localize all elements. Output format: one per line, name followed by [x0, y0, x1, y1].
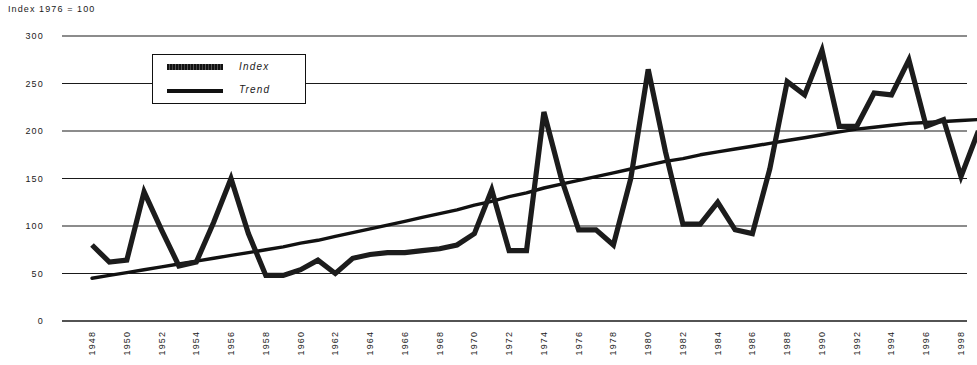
- x-tick-label: 1952: [158, 331, 167, 355]
- y-tick-label: 150: [2, 174, 44, 184]
- x-tick-label: 1960: [297, 331, 306, 355]
- x-tick-label: 1992: [853, 331, 862, 355]
- legend-swatch-index-icon: [167, 64, 223, 70]
- legend-entry-index: Index: [153, 56, 305, 80]
- y-tick-label: 50: [2, 269, 44, 279]
- x-tick-label: 1998: [957, 331, 966, 355]
- y-tick-label: 300: [2, 31, 44, 41]
- y-tick-label: 250: [2, 79, 44, 89]
- x-tick-label: 1978: [609, 331, 618, 355]
- x-tick-label: 1970: [470, 331, 479, 355]
- x-axis-labels: 1948195019521954195619581960196219641966…: [0, 331, 977, 365]
- y-tick-label: 0: [2, 316, 44, 326]
- chart-legend: Index Trend: [152, 54, 306, 104]
- x-tick-label: 1966: [401, 331, 410, 355]
- x-tick-label: 1958: [262, 331, 271, 355]
- x-tick-label: 1962: [331, 331, 340, 355]
- x-tick-label: 1988: [783, 331, 792, 355]
- x-tick-label: 1986: [748, 331, 757, 355]
- plot-area: [0, 0, 977, 365]
- y-tick-label: 200: [2, 126, 44, 136]
- chart-container: Index 1976 = 100 300250200150100500 1948…: [0, 0, 977, 365]
- legend-entry-trend: Trend: [153, 79, 305, 103]
- x-tick-label: 1964: [366, 331, 375, 355]
- legend-label-index: Index: [239, 61, 269, 72]
- y-tick-label: 100: [2, 221, 44, 231]
- x-tick-label: 1948: [88, 331, 97, 355]
- legend-swatch-trend-icon: [167, 89, 223, 93]
- x-tick-label: 1972: [505, 331, 514, 355]
- legend-label-trend: Trend: [239, 84, 270, 95]
- x-tick-label: 1954: [192, 331, 201, 355]
- x-tick-label: 1982: [679, 331, 688, 355]
- x-tick-label: 1984: [714, 331, 723, 355]
- x-tick-label: 1976: [575, 331, 584, 355]
- x-tick-label: 1980: [644, 331, 653, 355]
- x-tick-label: 1996: [922, 331, 931, 355]
- x-tick-label: 1968: [436, 331, 445, 355]
- x-tick-label: 1990: [818, 331, 827, 355]
- x-tick-label: 1974: [540, 331, 549, 355]
- x-tick-label: 1956: [227, 331, 236, 355]
- x-tick-label: 1994: [887, 331, 896, 355]
- x-tick-label: 1950: [123, 331, 132, 355]
